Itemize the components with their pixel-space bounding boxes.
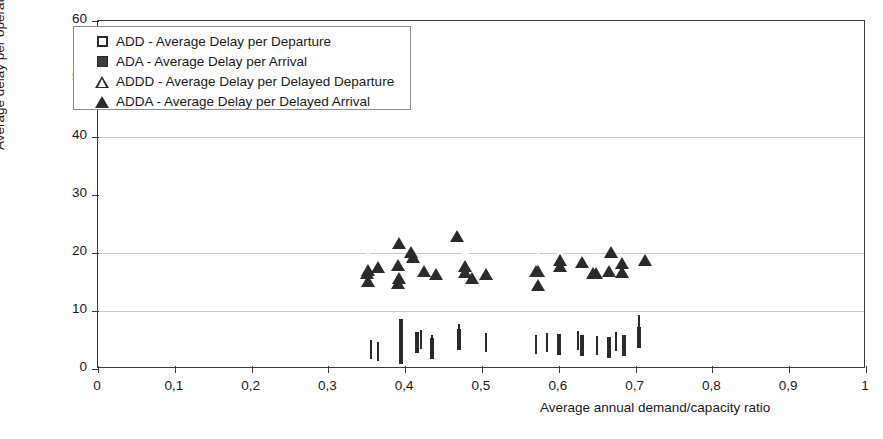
filled-square-marker xyxy=(577,331,579,350)
data-point-adda xyxy=(450,212,464,230)
x-axis-tick xyxy=(175,366,176,373)
data-point-ada xyxy=(546,334,548,352)
x-axis-tick xyxy=(559,366,560,373)
filled-triangle-marker xyxy=(479,251,493,280)
x-axis-tick-label: 0,5 xyxy=(461,378,501,393)
filled-square-marker xyxy=(615,332,617,351)
x-axis-tick-label: 0,6 xyxy=(538,378,578,393)
x-axis-tick xyxy=(482,366,483,373)
gridline xyxy=(98,137,864,138)
data-point-adda xyxy=(575,239,589,257)
filled-square-marker xyxy=(546,333,548,352)
y-axis-tick xyxy=(92,311,99,312)
y-axis-tick xyxy=(92,137,99,138)
open-triangle-marker xyxy=(95,76,109,88)
data-point-adda xyxy=(458,249,472,267)
data-point-adda xyxy=(531,262,545,280)
data-point-ada xyxy=(577,332,579,350)
open-square-marker xyxy=(415,332,419,353)
x-axis-tick-label: 0,4 xyxy=(384,378,424,393)
legend-item-ada: ADA - Average Delay per Arrival xyxy=(94,52,410,71)
filled-square-marker xyxy=(97,56,108,67)
filled-square-marker xyxy=(535,335,537,354)
filled-triangle-marker xyxy=(531,262,545,291)
data-point-adda xyxy=(553,237,567,255)
data-point-adda xyxy=(615,240,629,258)
filled-triangle-marker xyxy=(638,237,652,266)
data-point-ada xyxy=(420,331,422,349)
data-point-add xyxy=(622,337,626,355)
data-point-ada xyxy=(431,336,433,354)
data-point-adda xyxy=(391,260,405,278)
data-point-ada xyxy=(377,343,379,361)
data-point-add xyxy=(607,339,611,357)
data-point-adda xyxy=(429,251,443,269)
y-axis-tick xyxy=(92,195,99,196)
y-axis-tick-label: 10 xyxy=(51,301,87,316)
legend-marker-icon xyxy=(94,74,110,90)
y-axis-title: Average delay per operation - minutes xyxy=(0,0,7,150)
legend-marker-icon xyxy=(94,34,110,50)
chart-legend: ADD - Average Delay per DepartureADA - A… xyxy=(73,26,411,110)
x-axis-tick xyxy=(789,366,790,373)
legend-item-addd: ADDD - Average Delay per Delayed Departu… xyxy=(94,72,410,91)
filled-square-marker xyxy=(431,335,433,354)
open-square-marker xyxy=(580,335,584,356)
data-point-add xyxy=(557,336,561,354)
data-point-ada xyxy=(615,333,617,351)
x-axis-tick-label: 0,3 xyxy=(307,378,347,393)
y-axis-tick xyxy=(92,21,99,22)
filled-square-marker xyxy=(377,342,379,361)
filled-triangle-marker xyxy=(95,96,109,108)
data-point-adda xyxy=(391,241,405,259)
y-axis-tick-label: 0 xyxy=(51,359,87,374)
filled-triangle-marker xyxy=(553,237,567,266)
y-axis-tick-label: 30 xyxy=(51,185,87,200)
x-axis-tick-label: 0,7 xyxy=(615,378,655,393)
legend-marker-icon xyxy=(94,54,110,70)
filled-square-marker xyxy=(485,333,487,352)
legend-item-add: ADD - Average Delay per Departure xyxy=(94,32,410,51)
data-point-adda xyxy=(638,237,652,255)
x-axis-tick xyxy=(405,366,406,373)
filled-square-marker xyxy=(638,315,640,334)
y-axis-tick-label: 60 xyxy=(51,11,87,26)
data-point-adda xyxy=(479,251,493,269)
data-point-adda xyxy=(371,244,385,262)
data-point-ada xyxy=(596,337,598,355)
filled-square-marker xyxy=(400,338,402,357)
filled-square-marker xyxy=(458,329,460,348)
data-point-ada xyxy=(400,339,402,357)
filled-square-marker xyxy=(420,330,422,349)
filled-triangle-marker xyxy=(458,249,472,278)
filled-triangle-marker xyxy=(615,240,629,269)
legend-item-label: ADA - Average Delay per Arrival xyxy=(116,54,307,69)
legend-marker-icon xyxy=(94,94,110,110)
x-axis-tick xyxy=(98,366,99,373)
gridline xyxy=(98,311,864,312)
legend-item-label: ADDA - Average Delay per Delayed Arrival xyxy=(116,94,370,109)
open-square-marker xyxy=(622,335,626,356)
data-point-ada xyxy=(638,316,640,334)
filled-triangle-marker xyxy=(429,251,443,280)
legend-item-adda: ADDA - Average Delay per Delayed Arrival xyxy=(94,92,410,111)
open-square-marker xyxy=(557,334,561,355)
y-axis-tick-label: 40 xyxy=(51,127,87,142)
data-point-ada xyxy=(370,341,372,359)
data-point-add xyxy=(580,337,584,355)
filled-triangle-marker xyxy=(391,260,405,289)
filled-triangle-marker xyxy=(371,244,385,273)
open-square-marker xyxy=(97,36,108,47)
scatter-chart-figure: Average delay per operation - minutes 01… xyxy=(0,0,883,439)
data-point-ada xyxy=(535,336,537,354)
x-axis-tick xyxy=(252,366,253,373)
legend-item-label: ADD - Average Delay per Departure xyxy=(116,34,331,49)
x-axis-tick-label: 0,2 xyxy=(231,378,271,393)
x-axis-tick xyxy=(712,366,713,373)
data-point-add xyxy=(415,334,419,352)
filled-square-marker xyxy=(596,336,598,355)
legend-item-label: ADDD - Average Delay per Delayed Departu… xyxy=(116,74,394,89)
x-axis-tick-label: 0,1 xyxy=(154,378,194,393)
x-axis-tick-label: 0 xyxy=(77,378,117,393)
x-axis-tick-label: 0,8 xyxy=(691,378,731,393)
